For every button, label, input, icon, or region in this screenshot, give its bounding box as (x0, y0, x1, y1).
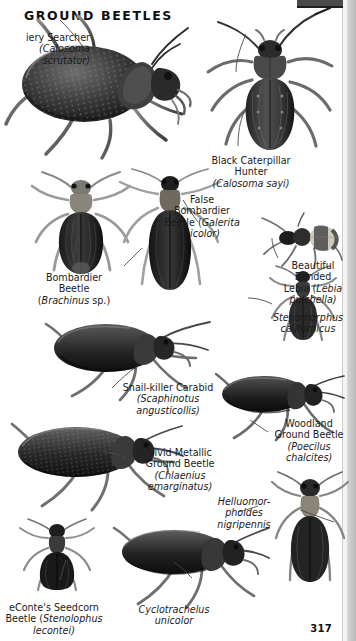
caption-line: Snail-killer Carabid (104, 382, 232, 393)
caption-line: angusticollis) (104, 405, 232, 416)
caption-line: Helluomor- (206, 496, 282, 507)
caption-line: False (150, 194, 254, 205)
caption-text: Beetle ( (164, 217, 202, 228)
caption-line: (Brachinus sp.) (22, 295, 126, 306)
caption-line: pulchella) (276, 294, 350, 305)
caption-leconte-seedcorn-beetle: eConte's Seedcorn Beetle (Stenolophus le… (0, 602, 112, 636)
caption-line: scrutator) (0, 55, 90, 66)
caption-line: Cyclotrachelus (122, 604, 226, 615)
caption-scientific: Stenolophus (43, 613, 103, 624)
caption-line: Banded (276, 271, 350, 282)
caption-helluomorphoides-nigripennis: Helluomor- phoides nigripennis (206, 496, 282, 530)
caption-line: Hunter (186, 166, 316, 177)
specimen-black-caterpillar-hunter (196, 6, 344, 156)
caption-line: Beetle (Galerita (150, 217, 254, 228)
caption-line: californicus (262, 323, 354, 334)
caption-line: Beetle (22, 283, 126, 294)
caption-line: Black Caterpillar (186, 155, 316, 166)
caption-snail-killer-carabid: Snail-killer Carabid (Scaphinotus angust… (104, 382, 232, 416)
specimen-cyclotrachelus-unicolor (112, 520, 270, 610)
page-number: 317 (310, 623, 332, 634)
caption-text: Lebia ( (284, 283, 317, 294)
caption-bombardier-beetle: Bombardier Beetle (Brachinus sp.) (22, 272, 126, 306)
caption-line: Stenomorphus (262, 312, 354, 323)
caption-scientific: Lebia (316, 283, 342, 294)
caption-line: unicolor (122, 615, 226, 626)
caption-line: iery Searcher (0, 32, 90, 43)
caption-line: Beautiful (276, 260, 350, 271)
caption-line: nigripennis (206, 519, 282, 530)
caption-black-caterpillar-hunter: Black Caterpillar Hunter (Calosoma sayi) (186, 155, 316, 189)
specimen-leconte-seedcorn-beetle (14, 516, 106, 592)
caption-line: Woodland (266, 418, 352, 429)
caption-line: Bombardier (150, 205, 254, 216)
caption-false-bombardier-beetle: False Bombardier Beetle (Galerita bicolo… (150, 194, 254, 240)
caption-line: lecontei) (0, 625, 112, 636)
caption-line: phoides (206, 507, 282, 518)
caption-line: Lebia (Lebia (276, 283, 350, 294)
caption-line: Ground Beetle (266, 429, 352, 440)
caption-cyclotrachelus-unicolor: Cyclotrachelus unicolor (122, 604, 226, 627)
caption-line: (Calosoma (0, 43, 90, 54)
caption-fiery-searcher: iery Searcher (Calosoma scrutator) (0, 32, 90, 66)
caption-stenomorphus-californicus: Stenomorphus californicus (262, 312, 354, 335)
caption-line: emarginatus) (128, 481, 232, 492)
caption-text: Beetle ( (5, 613, 43, 624)
caption-line: Vivid Metallic (128, 447, 232, 458)
caption-line: Ground Beetle (128, 458, 232, 469)
caption-line: (Calosoma sayi) (186, 178, 316, 189)
caption-line: (Scaphinotus (104, 393, 232, 404)
caption-line: (Poecilus (266, 441, 352, 452)
caption-scientific: Galerita (202, 217, 240, 228)
caption-line: Beetle (Stenolophus (0, 613, 112, 624)
caption-beautiful-banded-lebia: Beautiful Banded Lebia (Lebia pulchella) (276, 260, 350, 306)
caption-scientific: Brachinus (42, 295, 90, 306)
field-guide-page: GROUND BEETLES (0, 0, 356, 641)
caption-line: chalcites) (266, 452, 352, 463)
caption-line: eConte's Seedcorn (0, 602, 112, 613)
caption-vivid-metallic-ground-beetle: Vivid Metallic Ground Beetle (Chlaenius … (128, 447, 232, 493)
caption-line: Bombardier (22, 272, 126, 283)
caption-line: (Chlaenius (128, 470, 232, 481)
caption-text: sp.) (89, 295, 110, 306)
caption-line: bicolor) (150, 228, 254, 239)
caption-woodland-ground-beetle: Woodland Ground Beetle (Poecilus chalcit… (266, 418, 352, 464)
